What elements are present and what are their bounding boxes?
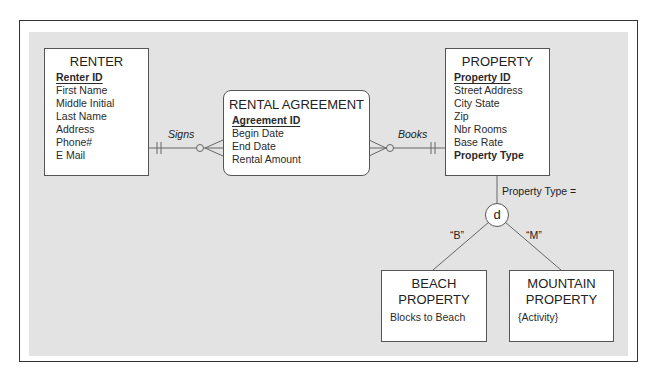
signs-relationship-label: Signs: [168, 128, 194, 140]
renter-attribute: E Mail: [45, 149, 148, 162]
property-entity: PROPERTY Property ID Street Address City…: [445, 48, 550, 176]
renter-primary-key: Renter ID: [45, 71, 148, 84]
property-primary-key: Property ID: [446, 71, 549, 84]
property-attribute: City State: [446, 97, 549, 110]
mountain-property-entity: MOUNTAIN PROPERTY {Activity}: [509, 270, 614, 342]
property-attribute: Street Address: [446, 84, 549, 97]
beach-property-title-line2: PROPERTY: [382, 292, 486, 308]
crowfoot-left-upper: [205, 140, 223, 148]
property-attribute: Base Rate: [446, 136, 549, 149]
mountain-discriminator-value: “M”: [526, 229, 542, 241]
discriminator-label: Property Type =: [502, 185, 576, 197]
crowfoot-right-upper: [369, 140, 386, 148]
renter-attribute: Middle Initial: [45, 97, 148, 110]
mountain-property-attribute: {Activity}: [510, 311, 613, 324]
books-relationship-label: Books: [398, 128, 427, 140]
rental-agreement-attribute: End Date: [224, 140, 369, 153]
renter-attribute: Address: [45, 123, 148, 136]
rental-agreement-primary-key: Agreement ID: [224, 114, 369, 127]
property-title: PROPERTY: [446, 54, 549, 70]
beach-property-entity: BEACH PROPERTY Blocks to Beach: [381, 270, 487, 342]
rental-agreement-attribute: Begin Date: [224, 127, 369, 140]
renter-attribute: Phone#: [45, 136, 148, 149]
optional-circle-left: [197, 145, 204, 152]
rental-agreement-attribute: Rental Amount: [224, 153, 369, 166]
disjoint-constraint-circle: d: [485, 203, 509, 227]
rental-agreement-title: RENTAL AGREEMENT: [224, 97, 369, 113]
renter-attribute: First Name: [45, 84, 148, 97]
optional-circle-right: [387, 145, 394, 152]
mountain-property-title-line1: MOUNTAIN: [510, 276, 613, 292]
renter-attribute: Last Name: [45, 110, 148, 123]
mountain-property-title-line2: PROPERTY: [510, 292, 613, 308]
rental-agreement-entity: RENTAL AGREEMENT Agreement ID Begin Date…: [223, 90, 370, 176]
renter-entity: RENTER Renter ID First Name Middle Initi…: [44, 48, 149, 176]
beach-property-attribute: Blocks to Beach: [382, 311, 486, 324]
property-attribute: Nbr Rooms: [446, 123, 549, 136]
crowfoot-left-lower: [205, 148, 223, 156]
property-attribute: Zip: [446, 110, 549, 123]
crowfoot-right-lower: [369, 148, 386, 156]
beach-property-title-line1: BEACH: [382, 276, 486, 292]
property-discriminator-attribute: Property Type: [446, 149, 549, 162]
renter-title: RENTER: [45, 54, 148, 70]
beach-discriminator-value: “B”: [450, 229, 464, 241]
